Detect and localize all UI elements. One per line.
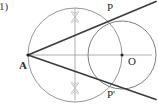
point-a-dot: [26, 53, 29, 56]
geometry-figure: 1) A P P' O: [0, 0, 158, 106]
figure-canvas: [0, 0, 158, 106]
point-a-label: A: [19, 60, 27, 71]
point-p-prime-label: P': [107, 89, 115, 100]
point-o-label: O: [128, 56, 136, 67]
problem-number-label: 1): [0, 1, 8, 12]
point-p-label: P: [107, 2, 113, 13]
point-o-dot: [121, 54, 124, 57]
tangent-line-upper: [28, 2, 156, 56]
